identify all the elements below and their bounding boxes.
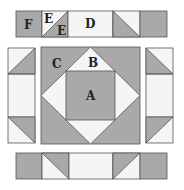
quilt-block-diagram: F E E D C B A xyxy=(0,0,184,190)
bottom-right-square xyxy=(140,153,167,179)
bottom-strip xyxy=(16,153,167,179)
bottom-middle-rect xyxy=(69,153,113,179)
label-d: D xyxy=(85,17,95,31)
right-strip xyxy=(146,48,173,143)
top-corner-square xyxy=(140,11,167,37)
label-e-bottom: E xyxy=(57,24,66,38)
label-f: F xyxy=(24,18,33,32)
left-strip xyxy=(8,48,35,143)
bottom-left-square xyxy=(16,153,42,179)
label-a: A xyxy=(85,89,96,103)
label-c: C xyxy=(52,57,62,71)
label-b: B xyxy=(88,56,98,70)
label-e-top: E xyxy=(44,12,53,26)
